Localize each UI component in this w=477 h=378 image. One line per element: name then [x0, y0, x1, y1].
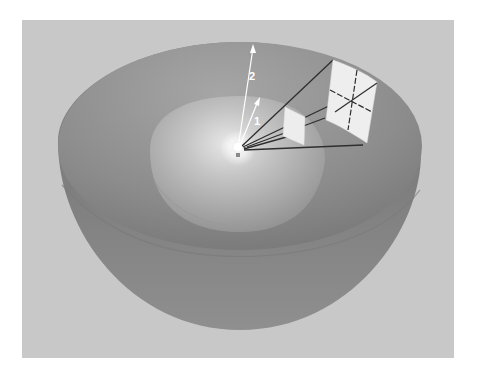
light-source-icon	[234, 143, 242, 151]
arrow-1-label: 1	[254, 115, 260, 127]
light-base	[236, 153, 240, 157]
arrow-2-label: 2	[249, 70, 255, 82]
hemisphere-diagram: 2 1	[0, 0, 477, 378]
